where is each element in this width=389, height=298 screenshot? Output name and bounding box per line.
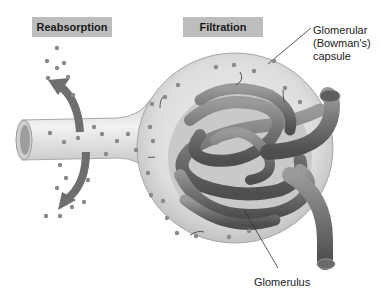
capsule-callout-line3: capsule [313, 50, 371, 63]
capsule-leader-line [268, 28, 311, 64]
capsule-callout: Glomerular (Bowman's) capsule [313, 24, 371, 63]
reabsorption-label: Reabsorption [32, 17, 112, 37]
capsule-callout-line1: Glomerular [313, 24, 371, 37]
capsule-callout-line2: (Bowman's) [313, 37, 371, 50]
filtration-label: Filtration [183, 17, 263, 37]
glomerulus-callout: Glomerulus [254, 276, 310, 289]
